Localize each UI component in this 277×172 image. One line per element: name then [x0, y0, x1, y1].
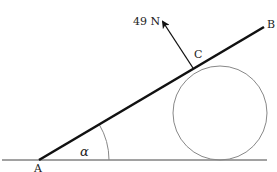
rod-ab	[39, 27, 264, 160]
point-label-b: B	[267, 18, 275, 31]
cylinder	[173, 66, 267, 160]
point-label-c: C	[194, 48, 202, 61]
angle-arc	[99, 124, 109, 160]
force-arrow	[163, 22, 193, 68]
point-label-a: A	[33, 162, 43, 172]
force-label: 49 N	[133, 15, 160, 28]
diagram-canvas: 49 N B C A α	[0, 0, 277, 172]
angle-label-alpha: α	[80, 144, 89, 159]
